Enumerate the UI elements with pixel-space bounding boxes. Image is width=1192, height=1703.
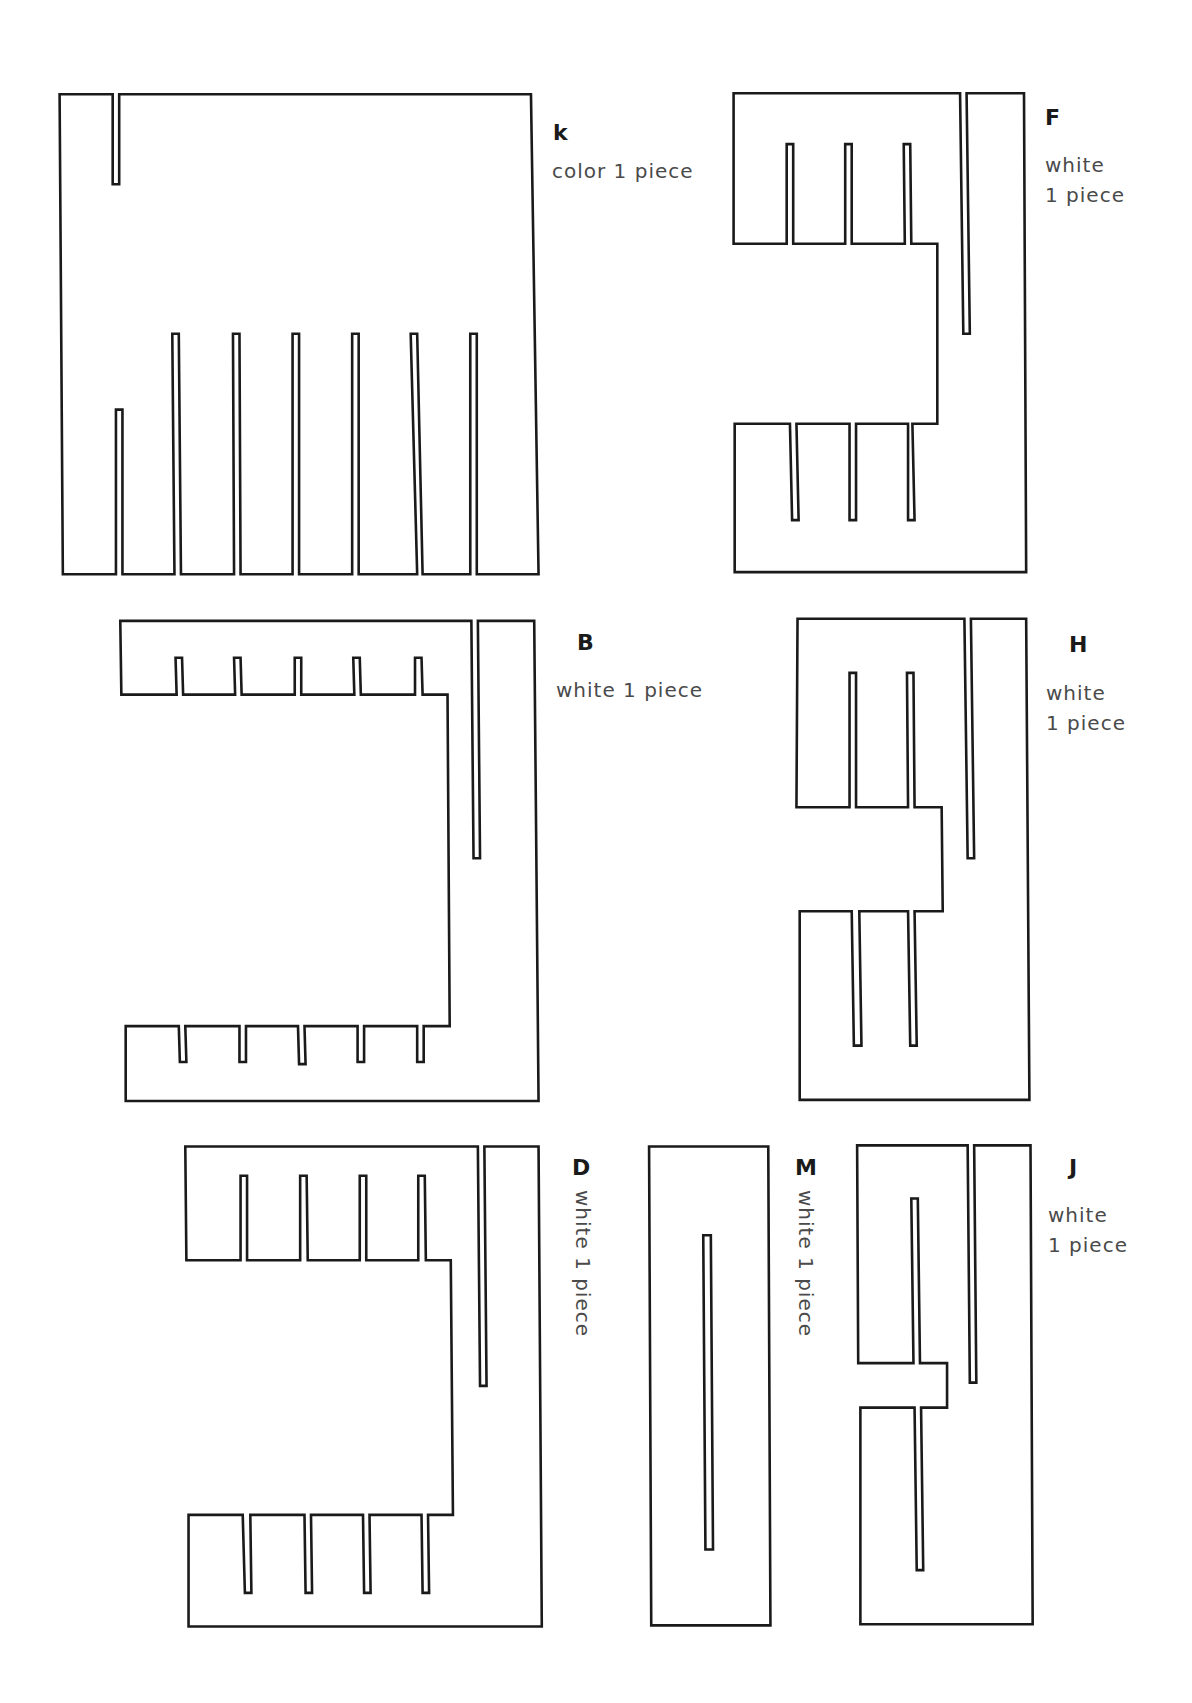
piece-h-description: white 1 piece [1046, 678, 1126, 738]
piece-j-label: J [1069, 1155, 1077, 1180]
piece-d-label: D [572, 1155, 590, 1180]
piece-k-description: color 1 piece [552, 156, 694, 186]
piece-m-description: white 1 piece [791, 1190, 821, 1337]
piece-f-outline [734, 93, 1027, 572]
piece-d-outline [185, 1146, 542, 1626]
piece-m-outline [649, 1146, 770, 1625]
piece-k-label: k [553, 120, 568, 145]
piece-m-label: M [795, 1155, 817, 1180]
piece-h-label: H [1069, 632, 1087, 657]
cutting-pattern-sheet [0, 0, 1192, 1703]
piece-j-description: white 1 piece [1048, 1200, 1128, 1260]
piece-b-outline [120, 621, 538, 1101]
piece-f-description: white 1 piece [1045, 150, 1125, 210]
piece-h-outline [796, 619, 1029, 1100]
piece-f-label: F [1045, 105, 1060, 130]
piece-b-description: white 1 piece [556, 675, 703, 705]
piece-d-description: white 1 piece [568, 1190, 598, 1337]
piece-j-outline [857, 1145, 1033, 1624]
piece-k-outline [60, 94, 539, 574]
piece-b-label: B [577, 630, 594, 655]
